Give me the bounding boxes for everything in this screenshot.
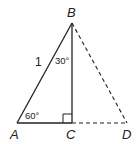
segment-ab	[17, 23, 72, 123]
right-angle-marker	[63, 114, 72, 123]
point-label-c: C	[66, 127, 76, 142]
segment-bd-dashed	[72, 23, 127, 123]
point-label-b: B	[67, 5, 76, 20]
angle-b-label: 30°	[55, 55, 70, 66]
point-label-d: D	[122, 127, 131, 142]
side-ab-length-label: 1	[35, 55, 42, 69]
point-label-a: A	[9, 127, 19, 142]
angle-a-label: 60°	[25, 110, 40, 121]
triangle-diagram: B A C D 1 30° 60°	[0, 0, 140, 144]
